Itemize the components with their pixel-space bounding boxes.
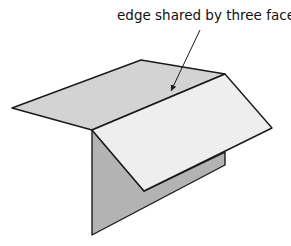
edge-label: edge shared by three faces bbox=[117, 7, 291, 23]
box-diagram: edge shared by three faces bbox=[0, 0, 291, 246]
